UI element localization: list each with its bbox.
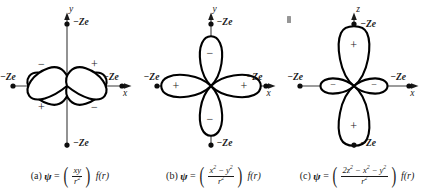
- panel-c: + + − − z x −Ze −Ze −Ze −Ze (c) ψ = ( 2z…: [287, 0, 431, 192]
- axis-label-vertical-c: z: [356, 4, 360, 14]
- lobe-sign-left: −: [330, 79, 336, 90]
- charge-label-bottom-b: −Ze: [217, 138, 233, 148]
- caption-fraction-b: x2 − y2 r2: [208, 166, 234, 186]
- lobe-top: [199, 36, 221, 86]
- charge-dot-top: [352, 21, 357, 26]
- caption-equals-a: =: [54, 171, 60, 181]
- charge-dot-bottom: [352, 142, 357, 147]
- caption-denominator-a: r2: [74, 177, 80, 186]
- lobe-top: [339, 26, 369, 86]
- lobe-bottom: [199, 86, 221, 136]
- panel-b: − − + + y x −Ze −Ze −Ze −Ze (b) ψ = ( x2…: [144, 0, 288, 192]
- caption-fraction-c: 2z2 − x2 − y2 r2: [341, 166, 388, 186]
- axis-label-vertical-b: y: [213, 4, 217, 14]
- charge-label-left-c: −Ze: [287, 72, 303, 82]
- charge-label-left-a: −Ze: [0, 72, 16, 82]
- diagram-b: − − + + y x −Ze −Ze −Ze −Ze: [144, 0, 288, 152]
- scan-artifact-mark: [287, 16, 291, 23]
- caption-label-b: (b): [166, 171, 178, 181]
- caption-psi-c: ψ: [313, 171, 320, 182]
- caption-a: (a) ψ = ( xy r2 ) f(r): [0, 166, 144, 186]
- charge-dot-bottom: [64, 142, 69, 147]
- paren-close-c: ): [391, 168, 396, 185]
- axis-label-horizontal-b: x: [267, 88, 271, 98]
- lobe-left: [161, 75, 211, 97]
- paren-open-b: (: [200, 168, 205, 185]
- charge-label-right-a: −Ze: [103, 72, 119, 82]
- charge-dot-left: [10, 83, 15, 88]
- charge-label-bottom-c: −Ze: [360, 138, 376, 148]
- lobe-sign-upper-left: −: [38, 57, 45, 72]
- caption-denominator-b: r2: [218, 177, 224, 186]
- orbital-figure: − + + − y x −Ze −Ze −Ze −Ze (a) ψ = ( xy…: [0, 0, 431, 192]
- charge-dot-left: [298, 83, 303, 88]
- charge-label-bottom-a: −Ze: [73, 138, 89, 148]
- lobe-bottom: [339, 86, 369, 146]
- axis-label-horizontal-a: x: [123, 88, 127, 98]
- paren-open-c: (: [333, 168, 338, 185]
- caption-c: (c) ψ = ( 2z2 − x2 − y2 r2 ) f(r): [287, 166, 431, 186]
- caption-psi-a: ψ: [44, 171, 51, 182]
- charge-dot-left: [154, 83, 159, 88]
- caption-denominator-c: r2: [361, 177, 367, 186]
- diagram-a: − + + − y x −Ze −Ze −Ze −Ze: [0, 0, 144, 152]
- panel-a: − + + − y x −Ze −Ze −Ze −Ze (a) ψ = ( xy…: [0, 0, 144, 192]
- charge-label-right-b: −Ze: [247, 72, 263, 82]
- diagram-c: + + − − z x −Ze −Ze −Ze −Ze: [287, 0, 431, 152]
- lobe-sign-lower-left: +: [38, 100, 45, 115]
- charge-dot-top: [208, 21, 213, 26]
- lobe-sign-left: +: [173, 79, 180, 94]
- paren-close-b: ): [238, 168, 243, 185]
- paren-open-a: (: [64, 168, 69, 185]
- lobe-sign-upper-right: +: [91, 57, 98, 72]
- lobe-sign-bottom: −: [207, 112, 214, 127]
- lobe-sign-top: +: [350, 38, 357, 53]
- caption-function-c: f(r): [401, 171, 414, 181]
- charge-label-right-c: −Ze: [390, 72, 406, 82]
- lobe-sign-lower-right: −: [91, 100, 98, 115]
- caption-equals-b: =: [190, 171, 196, 181]
- caption-fraction-a: xy r2: [72, 166, 83, 186]
- charge-dot-top: [64, 21, 69, 26]
- axis-label-vertical-a: y: [69, 4, 73, 14]
- caption-psi-b: ψ: [180, 171, 187, 182]
- caption-b: (b) ψ = ( x2 − y2 r2 ) f(r): [144, 166, 288, 186]
- caption-label-c: (c): [300, 171, 311, 181]
- charge-label-top-a: −Ze: [73, 17, 89, 27]
- axis-label-horizontal-c: x: [410, 88, 414, 98]
- caption-label-a: (a): [31, 171, 42, 181]
- lobe-sign-right: −: [371, 79, 377, 90]
- caption-equals-c: =: [323, 171, 329, 181]
- charge-label-left-b: −Ze: [144, 72, 160, 82]
- charge-label-top-c: −Ze: [360, 19, 376, 29]
- caption-function-b: f(r): [247, 171, 260, 181]
- paren-close-a: ): [86, 168, 91, 185]
- charge-label-top-b: −Ze: [217, 17, 233, 27]
- charge-dot-bottom: [208, 142, 213, 147]
- lobe-sign-bottom: +: [350, 119, 357, 134]
- caption-function-a: f(r): [96, 171, 109, 181]
- lobe-sign-top: −: [207, 46, 214, 61]
